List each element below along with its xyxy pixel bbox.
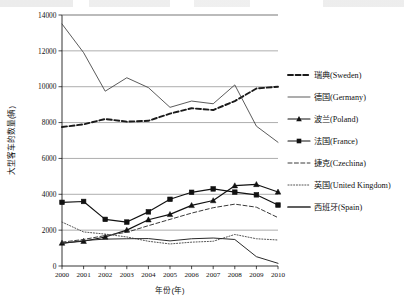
y-axis-tick-label: 6000 bbox=[42, 154, 57, 163]
legend-label: 法国(France) bbox=[314, 136, 358, 146]
legend-item[interactable]: 法国(France) bbox=[288, 136, 358, 146]
series-line-1 bbox=[62, 24, 278, 142]
y-axis-tick-label: 14000 bbox=[38, 11, 57, 20]
y-axis-tick-label: 10000 bbox=[38, 82, 57, 91]
legend-marker-square bbox=[297, 139, 302, 144]
legend-label: 德国(Germany) bbox=[314, 92, 366, 102]
x-axis-tick-label: 2000 bbox=[55, 271, 70, 279]
series-line-6 bbox=[62, 238, 278, 263]
legend-item[interactable]: 瑞典(Sweden) bbox=[288, 70, 362, 80]
data-point-marker bbox=[60, 200, 65, 205]
data-point-marker bbox=[210, 198, 216, 203]
x-axis-tick-label: 2001 bbox=[77, 271, 92, 279]
data-point-marker bbox=[233, 190, 238, 195]
y-axis-tick-label: 0 bbox=[53, 262, 57, 271]
data-point-marker bbox=[276, 203, 281, 208]
x-axis-label: 年份(年) bbox=[155, 285, 185, 295]
x-axis-tick-label: 2003 bbox=[120, 271, 135, 279]
legend-label: 波兰(Poland) bbox=[314, 114, 358, 124]
legend-label: 捷克(Czechina) bbox=[314, 158, 366, 168]
data-point-marker bbox=[125, 220, 130, 225]
y-axis-label: 大型客车的数量(辆) bbox=[6, 106, 16, 176]
data-point-marker bbox=[168, 197, 173, 202]
y-axis-tick-label: 12000 bbox=[38, 47, 57, 56]
line-chart-svg: 0200040006000800010000120001400020002001… bbox=[0, 0, 404, 306]
legend-item[interactable]: 捷克(Czechina) bbox=[288, 158, 366, 168]
y-axis-tick-label: 8000 bbox=[42, 118, 57, 127]
x-axis-tick-label: 2004 bbox=[141, 271, 156, 279]
legend-label: 英国(United Kingdom) bbox=[314, 180, 391, 190]
x-axis-tick-label: 2007 bbox=[206, 271, 221, 279]
x-axis-tick-label: 2006 bbox=[185, 271, 200, 279]
legend-item[interactable]: 德国(Germany) bbox=[288, 92, 366, 102]
legend-label: 西班牙(Spain) bbox=[314, 202, 362, 212]
y-axis-tick-label: 4000 bbox=[42, 190, 57, 199]
data-point-marker bbox=[254, 193, 259, 198]
data-point-marker bbox=[103, 217, 108, 222]
data-point-marker bbox=[81, 199, 86, 204]
data-point-marker bbox=[211, 187, 216, 192]
x-axis-tick-label: 2005 bbox=[163, 271, 178, 279]
data-point-marker bbox=[146, 210, 151, 215]
x-axis-tick-label: 2010 bbox=[271, 271, 286, 279]
x-axis-tick-label: 2009 bbox=[249, 271, 264, 279]
legend-label: 瑞典(Sweden) bbox=[314, 70, 362, 80]
chart-figure: 0200040006000800010000120001400020002001… bbox=[0, 0, 404, 306]
legend-item[interactable]: 英国(United Kingdom) bbox=[288, 180, 391, 190]
x-axis-tick-label: 2002 bbox=[98, 271, 113, 279]
x-axis-tick-label: 2008 bbox=[228, 271, 243, 279]
data-point-marker bbox=[189, 190, 194, 195]
y-axis-tick-label: 2000 bbox=[42, 226, 57, 235]
legend-item[interactable]: 波兰(Poland) bbox=[288, 114, 358, 124]
legend-item[interactable]: 西班牙(Spain) bbox=[288, 202, 362, 212]
